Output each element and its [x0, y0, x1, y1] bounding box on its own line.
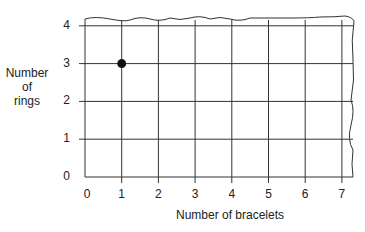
y-tick-label: 2	[56, 93, 70, 107]
x-tick-label: 3	[188, 187, 202, 201]
y-tick-label: 1	[56, 131, 70, 145]
x-tick-label: 0	[80, 187, 94, 201]
data-point	[117, 59, 126, 68]
torn-right-edge	[349, 21, 354, 177]
y-axis-label: Number of rings	[2, 66, 52, 108]
x-axis-label: Number of bracelets	[140, 208, 320, 222]
y-tick-label: 4	[56, 18, 70, 32]
y-tick-label: 3	[56, 56, 70, 70]
x-tick-label: 1	[115, 187, 129, 201]
x-tick-label: 2	[151, 187, 165, 201]
y-tick-label: 0	[56, 169, 70, 183]
x-tick-label: 4	[225, 187, 239, 201]
y-label-line-1: Number	[2, 66, 52, 80]
y-label-line-2: of	[2, 80, 52, 94]
x-tick-label: 5	[262, 187, 276, 201]
y-label-line-3: rings	[2, 94, 52, 108]
x-tick-label: 6	[298, 187, 312, 201]
torn-top-edge	[85, 16, 354, 21]
x-tick-label: 7	[335, 187, 349, 201]
